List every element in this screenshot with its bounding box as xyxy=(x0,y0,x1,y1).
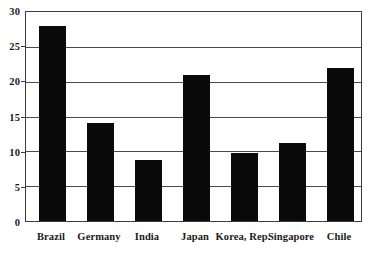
bar-chart: 30 25 20 15 10 5 0 Br xyxy=(0,0,374,262)
x-tick-label-germany: Germany xyxy=(77,231,120,242)
y-tick-label-5: 5 xyxy=(15,182,20,193)
bar-japan xyxy=(183,75,210,221)
bar-germany xyxy=(87,123,114,221)
bar-korea-rep xyxy=(231,153,258,221)
x-tick-label-brazil: Brazil xyxy=(37,231,65,242)
bar-brazil xyxy=(39,26,66,221)
x-tick-label-chile: Chile xyxy=(327,231,351,242)
y-tick-label-0: 0 xyxy=(15,217,20,228)
bar-india xyxy=(135,160,162,221)
x-tick-label-korea-rep: Korea, Rep. xyxy=(216,231,271,242)
x-tick-label-india: India xyxy=(135,231,159,242)
bar-singapore xyxy=(279,143,306,221)
x-tick-label-singapore: Singapore xyxy=(268,231,314,242)
bars-layer xyxy=(26,12,361,221)
x-tick-label-japan: Japan xyxy=(181,231,209,242)
bar-chile xyxy=(327,68,354,221)
x-axis: Brazil Germany India Japan Korea, Rep. S… xyxy=(25,223,362,262)
y-tick-label-30: 30 xyxy=(9,6,20,17)
y-tick-label-20: 20 xyxy=(9,76,20,87)
y-axis: 30 25 20 15 10 5 0 xyxy=(0,0,25,262)
y-tick-label-25: 25 xyxy=(9,41,20,52)
y-tick-label-10: 10 xyxy=(9,147,20,158)
y-tick-label-15: 15 xyxy=(9,112,20,123)
plot-area xyxy=(25,11,362,222)
